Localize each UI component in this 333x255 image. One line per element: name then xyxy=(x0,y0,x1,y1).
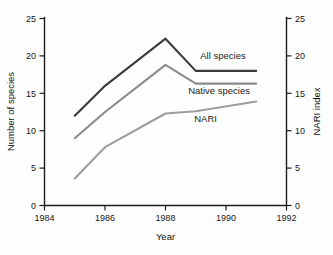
x-tick-labels: 1984 1986 1988 1990 1992 xyxy=(34,213,296,223)
left-y-tick-label: 5 xyxy=(31,163,36,173)
line-chart: 0 5 10 15 20 25 0 5 10 15 20 25 xyxy=(0,0,333,255)
x-axis-title: Year xyxy=(156,231,175,242)
right-y-tick-label: 20 xyxy=(295,51,305,61)
right-y-ticks xyxy=(287,19,292,206)
series-label-nari: NARI xyxy=(194,113,217,124)
x-tick-label: 1990 xyxy=(216,213,236,223)
left-y-tick-label: 20 xyxy=(26,51,36,61)
left-y-tick-label: 10 xyxy=(26,126,36,136)
chart-figure: 0 5 10 15 20 25 0 5 10 15 20 25 xyxy=(0,0,333,255)
y2-axis-title: NARI index xyxy=(311,87,322,135)
right-y-tick-label: 15 xyxy=(295,89,305,99)
left-y-tick-label: 0 xyxy=(31,201,36,211)
x-tick-label: 1988 xyxy=(155,213,175,223)
series-label-native-species: Native species xyxy=(188,85,250,96)
right-y-tick-label: 0 xyxy=(295,201,300,211)
y-axis-title: Number of species xyxy=(5,72,16,151)
right-y-tick-label: 10 xyxy=(295,126,305,136)
x-ticks xyxy=(45,206,287,211)
left-y-tick-label: 15 xyxy=(26,89,36,99)
x-tick-label: 1984 xyxy=(34,213,54,223)
series-annotations: All species Native species NARI xyxy=(188,50,250,124)
left-y-tick-label: 25 xyxy=(26,14,36,24)
right-y-tick-label: 25 xyxy=(295,14,305,24)
right-y-tick-label: 5 xyxy=(295,163,300,173)
left-y-tick-labels: 0 5 10 15 20 25 xyxy=(26,14,36,211)
left-y-ticks xyxy=(40,19,45,206)
series-line-nari xyxy=(75,102,257,179)
x-tick-label: 1986 xyxy=(95,213,115,223)
series-label-all-species: All species xyxy=(200,50,246,61)
x-tick-label: 1992 xyxy=(276,213,296,223)
series-line-native-species xyxy=(75,65,257,138)
right-y-tick-labels: 0 5 10 15 20 25 xyxy=(295,14,305,211)
